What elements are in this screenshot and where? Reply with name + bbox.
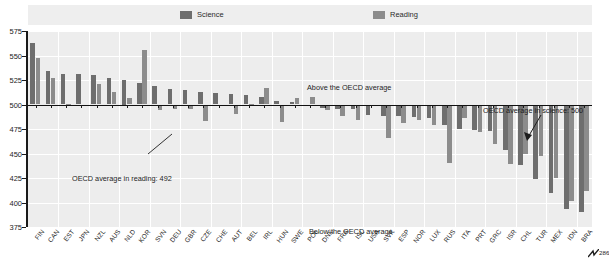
bar-group — [577, 31, 592, 227]
x-axis-tick — [417, 105, 418, 108]
y-axis-tick-label: 500 — [9, 100, 22, 109]
y-axis-tick — [22, 227, 26, 228]
bar-science — [381, 105, 386, 117]
bar-science — [427, 105, 432, 119]
x-axis-tick-label: FIN — [33, 228, 45, 241]
bar-group — [440, 31, 455, 227]
bar-science — [122, 80, 127, 105]
bar-series-container — [28, 31, 592, 227]
bar-group — [302, 31, 317, 227]
bar-science — [229, 94, 234, 105]
x-axis-tick-label: ESP — [397, 228, 411, 243]
bar-group — [470, 31, 485, 227]
x-axis-tick-label: NOR — [411, 228, 426, 244]
bar-group — [333, 31, 348, 227]
x-axis-tick-label: SVK — [382, 228, 396, 243]
arrow-icon-science — [523, 115, 549, 145]
bar-group — [455, 31, 470, 227]
bar-reading — [478, 105, 483, 132]
x-axis-tick-label: EST — [62, 228, 76, 243]
x-axis-tick-label: LUX — [428, 228, 442, 243]
bar-reading — [51, 78, 56, 104]
bar-group — [226, 31, 241, 227]
x-axis-tick-label: FRA — [336, 228, 350, 243]
bar-science — [244, 95, 249, 105]
bar-science — [412, 105, 417, 118]
bar-group — [165, 31, 180, 227]
x-axis-tick-label: IRL — [262, 228, 274, 241]
x-axis-tick-label: IDN — [566, 228, 579, 241]
y-axis-tick — [22, 80, 26, 81]
bar-group — [287, 31, 302, 227]
bar-group — [43, 31, 58, 227]
bar-reading — [142, 50, 147, 105]
bar-group — [89, 31, 104, 227]
x-axis-tick — [371, 105, 372, 108]
x-axis-tick — [386, 105, 387, 108]
bar-group — [74, 31, 89, 227]
square-swatch-icon — [180, 11, 192, 19]
x-axis-tick-label: USA — [366, 228, 380, 243]
y-axis-tick-label: 400 — [9, 198, 22, 207]
bar-science — [549, 105, 554, 193]
x-axis-labels: FINCANESTJPNNZLAUSNLDKORSVNDEUGBRCZECHEA… — [28, 228, 592, 259]
legend-label-reading: Reading — [390, 11, 418, 19]
x-axis-tick-label: BRA — [580, 228, 594, 243]
y-axis-tick — [22, 105, 26, 106]
y-axis-labels: 375400425450475500525550575 — [0, 31, 24, 227]
bar-science — [396, 105, 401, 117]
bar-group — [394, 31, 409, 227]
bar-group — [180, 31, 195, 227]
bar-reading — [554, 105, 559, 179]
bar-science — [457, 105, 462, 130]
bar-reading — [447, 105, 452, 164]
bar-group — [379, 31, 394, 227]
bar-reading — [112, 92, 117, 105]
x-axis-tick — [264, 105, 265, 108]
bar-group — [28, 31, 43, 227]
x-axis-tick-label: NZL — [93, 228, 106, 242]
x-axis-tick — [462, 105, 463, 108]
bar-science — [152, 86, 157, 105]
x-axis-tick-label: SVN — [153, 228, 167, 243]
bar-reading — [36, 58, 41, 104]
x-axis-tick — [356, 105, 357, 108]
y-axis-tick — [22, 56, 26, 57]
bar-science — [30, 43, 35, 105]
x-axis-tick — [478, 105, 479, 108]
y-axis-tick-label: 375 — [9, 223, 22, 232]
bar-reading — [295, 98, 300, 105]
bar-science — [168, 89, 173, 105]
x-axis-tick — [158, 105, 159, 108]
x-axis-tick-label: CAN — [46, 228, 60, 244]
bar-group — [272, 31, 287, 227]
y-axis-tick-label: 525 — [9, 76, 22, 85]
x-axis-tick-label: GRC — [488, 228, 503, 244]
bar-group — [135, 31, 150, 227]
bar-reading — [127, 98, 132, 105]
bar-science — [137, 83, 142, 105]
x-axis-tick-label: SWE — [289, 228, 304, 244]
bar-reading — [264, 88, 269, 105]
x-axis-tick-label: CHL — [519, 228, 533, 243]
x-axis-tick-label: PRT — [473, 228, 487, 243]
bar-science — [107, 78, 112, 104]
x-axis-tick — [295, 105, 296, 108]
bar-science — [259, 97, 264, 105]
y-axis-tick-label: 475 — [9, 125, 22, 134]
x-axis-tick-label: ISR — [505, 228, 517, 241]
x-axis-tick-label: JPN — [77, 228, 90, 242]
x-axis-tick — [432, 105, 433, 108]
x-axis-tick — [234, 105, 235, 108]
bar-group — [119, 31, 134, 227]
bar-science — [442, 105, 447, 126]
x-axis-tick-label: TUR — [534, 228, 548, 243]
annotation-reading-average: OECD average in reading: 492 — [72, 174, 172, 183]
x-axis-tick — [173, 105, 174, 108]
bar-group — [562, 31, 577, 227]
x-axis-tick-label: DEU — [168, 228, 182, 244]
y-axis-tick-label: 550 — [9, 51, 22, 60]
y-axis-tick — [22, 129, 26, 130]
x-axis-tick — [203, 105, 204, 108]
bar-group — [424, 31, 439, 227]
